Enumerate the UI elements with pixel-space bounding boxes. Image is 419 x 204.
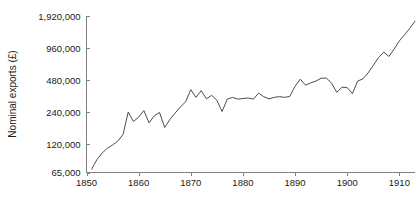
chart-screenshot: Nominal exports (£) 1,920,000960,000480,… bbox=[0, 0, 419, 204]
y-axis-title-text: Nominal exports (£) bbox=[7, 50, 18, 137]
y-axis-tick-label: 120,000 bbox=[46, 139, 80, 150]
x-axis-tick-label: 1880 bbox=[232, 177, 253, 188]
x-axis-tick-label: 1860 bbox=[128, 177, 149, 188]
y-axis-tick-label: 480,000 bbox=[46, 75, 80, 86]
x-axis-tick-label: 1910 bbox=[389, 177, 410, 188]
x-axis-tick-label: 1870 bbox=[180, 177, 201, 188]
y-axis-title: Nominal exports (£) bbox=[7, 50, 18, 137]
data-series-line bbox=[92, 21, 415, 169]
y-axis-tick-label: 240,000 bbox=[46, 107, 80, 118]
y-axis-tick-label: 960,000 bbox=[46, 43, 80, 54]
exports-line-chart: Nominal exports (£) 1,920,000960,000480,… bbox=[0, 0, 419, 204]
x-axis-tick-label: 1900 bbox=[337, 177, 358, 188]
y-axis-tick-labels: 1,920,000960,000480,000240,000120,00065,… bbox=[38, 11, 80, 179]
y-axis-tick-label: 1,920,000 bbox=[38, 11, 80, 22]
x-axis-tick-labels: 1850186018701880189019001910 bbox=[76, 177, 410, 188]
x-axis-tick-label: 1890 bbox=[285, 177, 306, 188]
x-axis-tick-label: 1850 bbox=[76, 177, 97, 188]
